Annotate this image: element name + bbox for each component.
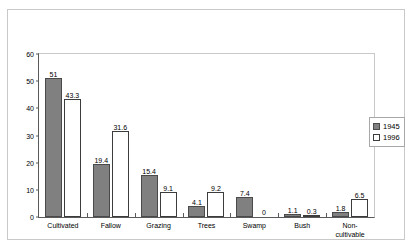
bar-value-label: 9.2 [211, 185, 221, 192]
bar-group: 7.40Swamp [230, 54, 278, 217]
x-tick-label: Grazing [146, 222, 171, 231]
bar-group: 4.19.2Trees [183, 54, 231, 217]
y-tick-label: 30 [26, 132, 34, 139]
bar-group: 19.431.6Fallow [87, 54, 135, 217]
chart-figure: Percent of total transects 0102030405060… [7, 9, 405, 240]
legend-label: 1996 [383, 134, 400, 142]
bar-1945: 1.1 [284, 214, 301, 217]
bar-value-label: 1.8 [336, 205, 346, 212]
legend-label: 1945 [383, 123, 400, 131]
bar-value-label: 9.1 [163, 185, 173, 192]
bar-1945: 7.4 [236, 197, 253, 217]
x-tick-label: Bush [294, 222, 310, 231]
bar-value-label: 51 [50, 71, 58, 78]
x-tick-label: Non-cultivable [335, 222, 364, 239]
legend-item-1996: 1996 [373, 132, 400, 143]
bar-1996: 0.3 [303, 215, 320, 217]
plot-area: 0102030405060 5143.3Cultivated19.431.6Fa… [38, 53, 375, 218]
bar-value-label: 4.1 [192, 199, 202, 206]
bar-1945: 51 [45, 78, 62, 217]
bar-1945: 19.4 [93, 164, 110, 217]
x-tick-label: Fallow [101, 222, 121, 231]
bar-1996: 43.3 [64, 99, 81, 217]
bar-1996: 9.2 [207, 192, 224, 217]
y-tick-label: 0 [30, 214, 34, 221]
y-tick-label: 60 [26, 51, 34, 58]
x-tick-label: Swamp [243, 222, 266, 231]
bar-1945: 15.4 [141, 175, 158, 217]
outlined-white-swatch-icon [373, 134, 380, 141]
bar-1945: 4.1 [188, 206, 205, 217]
bar-value-label: 6.5 [355, 192, 365, 199]
y-tick-label: 10 [26, 186, 34, 193]
x-tick-label: Cultivated [47, 222, 78, 231]
y-tick-label: 50 [26, 78, 34, 85]
bar-1996: 9.1 [160, 192, 177, 217]
bar-value-label: 15.4 [142, 168, 156, 175]
bar-1996: 31.6 [112, 131, 129, 217]
bar-group: 5143.3Cultivated [39, 54, 87, 217]
filled-gray-swatch-icon [373, 123, 380, 130]
bar-1996: 6.5 [351, 199, 368, 217]
bar-value-label: 1.1 [288, 207, 298, 214]
legend-item-1945: 1945 [373, 121, 400, 132]
bar-value-label: 31.6 [113, 124, 127, 131]
x-tick-label: Trees [198, 222, 216, 231]
bar-value-label: 0 [262, 209, 266, 216]
bar-1945: 1.8 [332, 212, 349, 217]
chart-legend: 1945 1996 [369, 117, 405, 147]
y-tick-label: 20 [26, 159, 34, 166]
bar-value-label: 7.4 [240, 190, 250, 197]
bar-value-label: 43.3 [66, 92, 80, 99]
bar-group: 15.49.1Grazing [135, 54, 183, 217]
bar-value-label: 19.4 [94, 157, 108, 164]
y-tick-label: 40 [26, 105, 34, 112]
bar-value-label: 0.3 [307, 208, 317, 215]
bar-group: 1.10.3Bush [278, 54, 326, 217]
bar-group: 1.86.5Non-cultivable [326, 54, 374, 217]
